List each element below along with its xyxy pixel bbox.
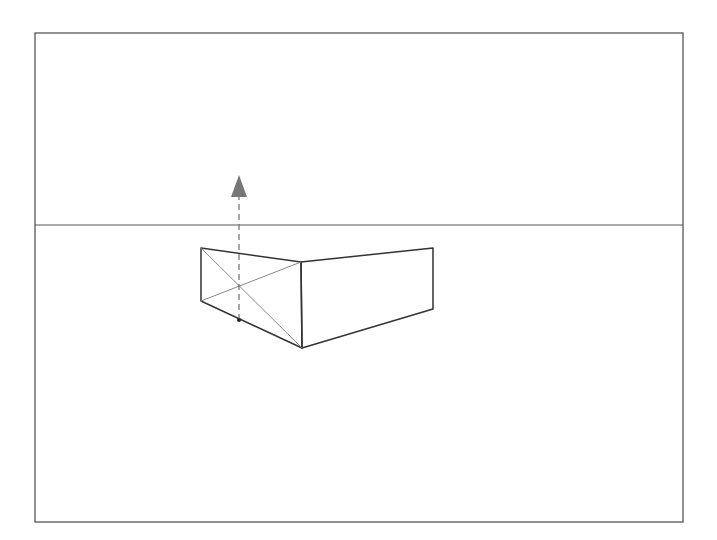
anchor-dot — [237, 318, 241, 322]
diagonal-line-2 — [201, 262, 301, 301]
diagram-frame — [35, 33, 683, 522]
box-right-face — [301, 248, 433, 348]
arrow-up-icon — [231, 175, 247, 197]
perspective-diagram — [0, 0, 717, 540]
diagonal-line-1 — [201, 248, 302, 348]
